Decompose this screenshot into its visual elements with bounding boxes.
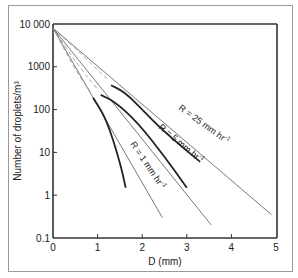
x-axis-title: D (mm) <box>148 256 181 267</box>
data-curves: R = 25 mm hr-1R = 5 mm hr-1R = 1 mm hr-1 <box>53 28 272 225</box>
y-axis-title: Number of droplets/m³ <box>12 81 23 181</box>
y-tick-label: 1000 <box>28 61 51 72</box>
droplet-size-distribution-chart: 0123450.1110100100010 000 R = 25 mm hr-1… <box>0 0 298 278</box>
exponential-fit-line <box>53 28 272 215</box>
y-tick-label: 0.1 <box>36 233 50 244</box>
y-tick-label: 10 000 <box>19 19 50 30</box>
x-tick-label: 2 <box>139 242 145 253</box>
exponential-fit-line <box>53 28 211 225</box>
x-tick-label: 5 <box>273 242 279 253</box>
x-tick-label: 0 <box>50 242 56 253</box>
curve-label: R = 5 mm hr-1 <box>157 121 207 165</box>
dashed-fit-curve <box>53 28 98 90</box>
measured-curve <box>93 98 126 188</box>
x-tick-label: 4 <box>229 242 235 253</box>
y-tick-label: 100 <box>33 104 50 115</box>
axis-ticks: 0123450.1110100100010 000 <box>19 19 279 254</box>
x-tick-label: 1 <box>95 242 101 253</box>
x-tick-label: 3 <box>184 242 190 253</box>
y-tick-label: 1 <box>44 190 50 201</box>
y-tick-label: 10 <box>39 147 51 158</box>
dashed-fit-curve <box>53 28 108 80</box>
